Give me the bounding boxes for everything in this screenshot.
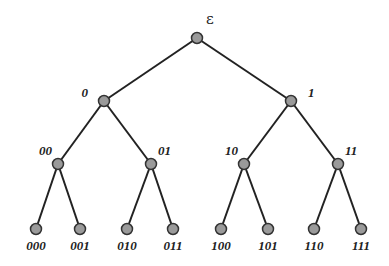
edge-01-010: [127, 164, 151, 229]
edge-11-111: [338, 164, 361, 229]
edge-0-01: [104, 101, 151, 164]
node-1: [286, 96, 297, 107]
edge-00-000: [36, 164, 58, 229]
node-label-1: 1: [308, 85, 315, 100]
binary-tree-diagram: ε0100011011000001010011100101110111: [0, 0, 389, 266]
node-label-00: 00: [39, 143, 53, 158]
node-label-000: 000: [26, 238, 46, 253]
node-110: [309, 224, 320, 235]
node-011: [168, 224, 179, 235]
edge-00-001: [58, 164, 80, 229]
node-0: [99, 96, 110, 107]
edge-01-011: [151, 164, 173, 229]
tree-edges: [36, 38, 361, 229]
node-root: [192, 33, 203, 44]
node-10: [239, 159, 250, 170]
edge-root-1: [197, 38, 291, 101]
node-label-001: 001: [70, 238, 90, 253]
node-100: [216, 224, 227, 235]
edge-1-10: [244, 101, 291, 164]
node-label-root: ε: [206, 10, 214, 28]
edge-root-0: [104, 38, 197, 101]
node-101: [263, 224, 274, 235]
node-01: [146, 159, 157, 170]
node-00: [53, 159, 64, 170]
node-label-101: 101: [258, 238, 278, 253]
node-label-100: 100: [211, 238, 231, 253]
node-000: [31, 224, 42, 235]
node-010: [122, 224, 133, 235]
node-001: [75, 224, 86, 235]
edge-10-100: [221, 164, 244, 229]
node-label-01: 01: [158, 143, 171, 158]
node-label-10: 10: [225, 143, 239, 158]
tree-canvas: ε0100011011000001010011100101110111: [0, 0, 389, 266]
node-label-110: 110: [305, 238, 324, 253]
node-label-010: 010: [117, 238, 137, 253]
edge-0-00: [58, 101, 104, 164]
node-label-111: 111: [352, 238, 370, 253]
node-label-011: 011: [164, 238, 183, 253]
node-label-0: 0: [82, 85, 89, 100]
edge-11-110: [314, 164, 338, 229]
edge-10-101: [244, 164, 268, 229]
node-11: [333, 159, 344, 170]
edge-1-11: [291, 101, 338, 164]
node-111: [356, 224, 367, 235]
node-label-11: 11: [345, 143, 357, 158]
